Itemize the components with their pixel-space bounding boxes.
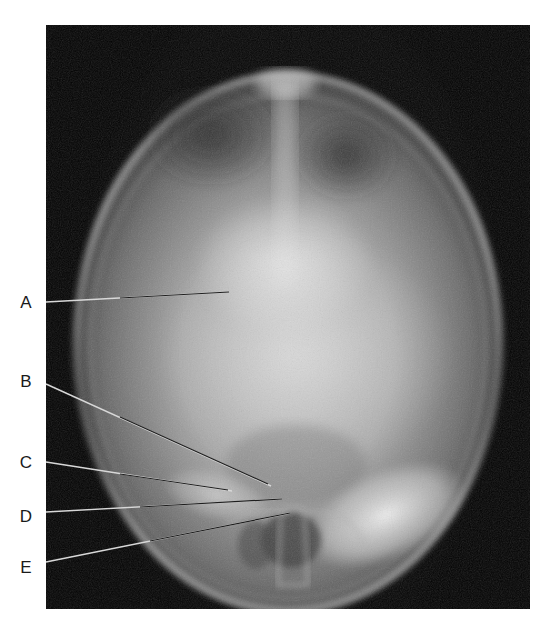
skull-xray-graphic bbox=[46, 25, 530, 609]
radiograph-figure: A B C D E bbox=[0, 0, 553, 631]
label-d: D bbox=[16, 507, 36, 527]
label-e: E bbox=[16, 558, 36, 578]
skull-xray-image bbox=[46, 25, 530, 609]
label-c: C bbox=[16, 453, 36, 473]
label-a: A bbox=[16, 293, 36, 313]
label-b: B bbox=[16, 372, 36, 392]
